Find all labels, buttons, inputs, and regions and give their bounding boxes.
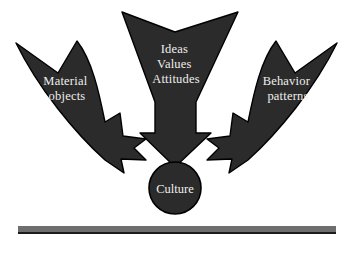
diagram-canvas: Material objects Behavior patterns Ideas… bbox=[0, 0, 353, 255]
baseline-bar bbox=[18, 226, 336, 234]
baseline-bar-shadow bbox=[18, 232, 336, 234]
culture-circle-label: Culture bbox=[156, 182, 194, 196]
arrow-behavior-patterns-shape bbox=[207, 41, 337, 173]
arrow-behavior-patterns-label: Behavior patterns bbox=[263, 74, 314, 103]
culture-diagram: Material objects Behavior patterns Ideas… bbox=[0, 0, 353, 255]
arrow-material-objects-shape bbox=[16, 41, 146, 173]
center-node-culture: Culture bbox=[149, 162, 201, 214]
arrow-material-objects-label: Material objects bbox=[43, 74, 90, 103]
baseline-bar-fill bbox=[18, 226, 336, 232]
arrow-material-objects: Material objects bbox=[16, 41, 146, 173]
arrow-behavior-patterns: Behavior patterns bbox=[207, 41, 337, 173]
